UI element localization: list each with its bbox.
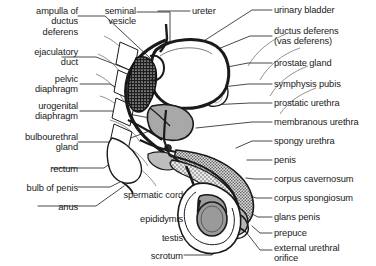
label-epididymis: epididymis bbox=[103, 214, 183, 224]
label-penis: penis bbox=[274, 155, 296, 165]
label-spermatic-cord: spermatic cord bbox=[103, 190, 183, 200]
label-anus: anus bbox=[2, 202, 78, 212]
label-symphysis-pubis: symphysis pubis bbox=[274, 79, 341, 89]
label-ureter: ureter bbox=[192, 6, 242, 16]
testis-shape bbox=[197, 202, 227, 236]
label-pelvic-diaphragm: pelvic diaphragm bbox=[2, 74, 78, 95]
label-spongy-urethra: spongy urethra bbox=[274, 136, 335, 146]
rectum-shape bbox=[107, 138, 141, 183]
leader-corpus-cavernosum bbox=[246, 178, 272, 179]
label-urogenital-diaphragm: urogenital diaphragm bbox=[2, 101, 78, 122]
label-corpus-cavernosum: corpus cavernosum bbox=[274, 174, 353, 184]
label-seminal-vesicle: seminal vesicle bbox=[80, 6, 136, 27]
label-ejaculatory-duct: ejaculatory duct bbox=[2, 47, 78, 68]
label-prepuce: prepuce bbox=[274, 228, 307, 238]
leader-spongy-urethra bbox=[236, 141, 272, 148]
label-corpus-spongiosum: corpus spongiosum bbox=[274, 193, 353, 203]
leader-prepuce bbox=[252, 226, 272, 233]
leader-membranous-urethra bbox=[196, 122, 272, 128]
label-scrotum: scrotum bbox=[103, 251, 183, 261]
label-bulbourethral-gland: bulbourethral gland bbox=[2, 132, 78, 153]
label-prostate-gland: prostate gland bbox=[274, 58, 332, 68]
label-bulb-of-penis: bulb of penis bbox=[2, 183, 78, 193]
label-external-urethral-orifice: external urethral orifice bbox=[274, 243, 339, 264]
label-rectum: rectum bbox=[2, 164, 78, 174]
label-glans-penis: glans penis bbox=[274, 212, 320, 222]
label-testis: testis bbox=[103, 233, 183, 243]
label-urinary-bladder: urinary bladder bbox=[274, 5, 335, 15]
leader-external-urethral-orifice bbox=[246, 232, 272, 250]
label-ductus-deferens: ductus deferens (vas deferens) bbox=[274, 26, 339, 47]
label-prostatic-urethra: prostatic urethra bbox=[274, 98, 339, 108]
label-membranous-urethra: membranous urethra bbox=[274, 117, 359, 127]
label-ampulla-of-ductus-deferens: ampulla of ductus deferens bbox=[2, 6, 78, 37]
